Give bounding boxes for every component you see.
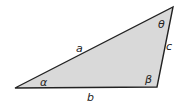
side-b-label: b [87, 91, 94, 104]
triangle-diagram: a b c α β θ [0, 0, 182, 106]
side-c-label: c [166, 40, 172, 53]
angle-alpha-label: α [40, 76, 48, 89]
angle-theta-label: θ [158, 18, 165, 31]
angle-beta-label: β [144, 73, 152, 86]
side-a-label: a [76, 42, 83, 55]
